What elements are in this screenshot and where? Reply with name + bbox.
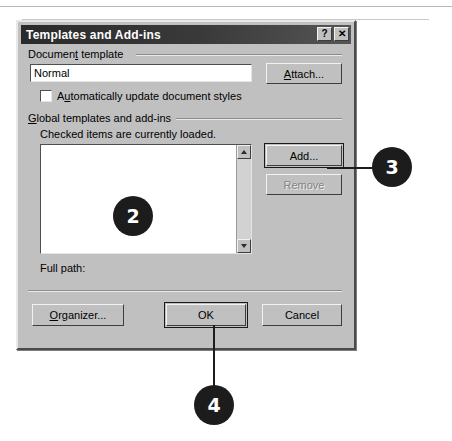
scroll-down-button[interactable] bbox=[237, 239, 251, 253]
attach-button[interactable]: Attach... bbox=[266, 63, 342, 84]
help-button[interactable]: ? bbox=[317, 27, 332, 41]
ok-button[interactable]: OK bbox=[166, 304, 246, 326]
callout-4: 4 bbox=[194, 385, 234, 425]
callout-3: 3 bbox=[372, 147, 412, 187]
organizer-button[interactable]: Organizer... bbox=[32, 304, 124, 326]
callout-2: 2 bbox=[113, 196, 153, 236]
auto-update-styles-checkbox[interactable]: Automatically update document styles bbox=[40, 90, 242, 102]
remove-button: Remove bbox=[266, 174, 342, 195]
checked-items-hint: Checked items are currently loaded. bbox=[40, 128, 216, 140]
add-button[interactable]: Add... bbox=[266, 145, 342, 166]
templates-and-addins-dialog: Templates and Add-ins ? ✕ Document templ… bbox=[16, 20, 356, 350]
arrow-up-icon bbox=[241, 150, 247, 154]
checkbox-box-icon[interactable] bbox=[40, 90, 52, 102]
cancel-button[interactable]: Cancel bbox=[262, 304, 342, 326]
global-templates-listbox[interactable] bbox=[40, 144, 252, 254]
document-template-group-label: Document template bbox=[28, 48, 126, 60]
dialog-title: Templates and Add-ins bbox=[26, 28, 161, 42]
global-templates-group-label: Global templates and add-ins bbox=[28, 112, 174, 124]
scroll-up-button[interactable] bbox=[237, 145, 251, 159]
document-template-input[interactable]: Normal bbox=[30, 64, 252, 82]
listbox-scrollbar[interactable] bbox=[236, 145, 251, 253]
titlebar-buttons: ? ✕ bbox=[317, 27, 349, 41]
dialog-titlebar[interactable]: Templates and Add-ins ? ✕ bbox=[21, 25, 351, 44]
page-top-rule bbox=[0, 6, 452, 7]
footer-separator bbox=[28, 290, 342, 292]
full-path-label: Full path: bbox=[40, 262, 85, 274]
close-button[interactable]: ✕ bbox=[334, 27, 349, 41]
callout-4-leader bbox=[213, 325, 215, 393]
auto-update-styles-label: Automatically update document styles bbox=[57, 90, 242, 102]
global-templates-group-rule bbox=[176, 118, 342, 120]
document-template-group-rule bbox=[136, 54, 342, 56]
arrow-down-icon bbox=[241, 244, 247, 248]
